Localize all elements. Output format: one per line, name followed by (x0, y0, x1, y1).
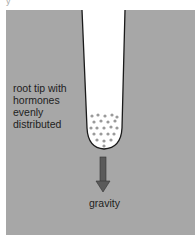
hormone-dot (95, 126, 98, 129)
hormone-dot (102, 126, 105, 129)
label-line: hormones (13, 94, 67, 106)
hormone-dot (92, 132, 95, 135)
label-line: evenly (13, 106, 67, 118)
hormone-dot (89, 126, 92, 129)
label-line: distributed (13, 118, 67, 130)
gravity-arrow-icon (96, 157, 110, 192)
hormone-dot (99, 119, 102, 122)
gravity-label: gravity (89, 197, 120, 209)
hormone-dot (90, 114, 93, 117)
hormone-dot (109, 138, 112, 141)
hormone-dot (99, 132, 102, 135)
hormone-dot (115, 115, 118, 118)
root-tip-label: root tip with hormones evenly distribute… (13, 82, 67, 130)
hormone-dot (113, 119, 116, 122)
hormone-dot (115, 126, 118, 129)
hormone-dot (109, 125, 112, 128)
hormone-dot (110, 113, 113, 116)
hormone-dot (106, 132, 109, 135)
hormone-dot (96, 113, 99, 116)
hormone-dot (106, 120, 109, 123)
label-line: root tip with (13, 82, 67, 94)
hormone-dot (112, 132, 115, 135)
hormone-dot (102, 144, 105, 147)
hormone-dot (103, 114, 106, 117)
hormone-dot (92, 120, 95, 123)
hormone-dot (102, 139, 105, 142)
hormone-dot (95, 138, 98, 141)
